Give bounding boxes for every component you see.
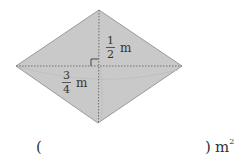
area-unit: m2	[215, 138, 234, 156]
fraction-denominator: 2	[107, 48, 114, 60]
label-three-quarter-meter: 3 4 m	[62, 70, 87, 95]
unit-label: m	[120, 41, 131, 55]
unit-base: m	[215, 138, 229, 156]
close-parenthesis: )	[205, 138, 211, 156]
fraction-numerator: 1	[106, 35, 115, 48]
fraction-numerator: 3	[62, 70, 71, 83]
open-parenthesis: (	[36, 138, 42, 156]
label-half-meter: 1 2 m	[106, 35, 131, 60]
fraction-three-quarter: 3 4	[62, 70, 71, 95]
unit-exponent: 2	[229, 137, 234, 146]
unit-label: m	[76, 76, 87, 90]
answer-row: ( ) m2	[0, 137, 250, 161]
fraction-denominator: 4	[63, 83, 70, 95]
answer-blank[interactable]	[50, 137, 200, 159]
fraction-half: 1 2	[106, 35, 115, 60]
